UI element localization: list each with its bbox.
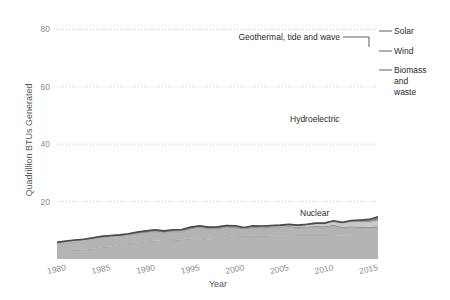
x-tick-label: 1990: [135, 262, 156, 276]
y-tick-label: 80: [41, 24, 51, 34]
y-axis-title: Quadrillion BTUs Generated: [24, 83, 34, 196]
solar-label: Solar: [394, 26, 414, 36]
x-tick-label: 2005: [269, 262, 290, 276]
x-tick-label: 1980: [46, 262, 67, 276]
x-tick-labels-group: 19801985199019952000200520102015: [46, 262, 379, 276]
hydroelectric-label: Hydroelectric: [290, 114, 340, 124]
nuclear-label: Nuclear: [300, 208, 329, 218]
x-tick-label: 2000: [224, 262, 245, 276]
area-chart-svg: 20406080 1980198519901995200020052010201…: [0, 0, 450, 300]
y-tick-labels-group: 20406080: [41, 24, 51, 206]
geothermal-callout-label: Geothermal, tide and wave: [238, 32, 340, 42]
x-tick-label: 2010: [314, 262, 335, 276]
y-tick-label: 20: [41, 197, 51, 207]
x-tick-label: 1985: [91, 262, 112, 276]
stacked-area-group: [57, 217, 378, 259]
x-tick-label: 1995: [180, 262, 201, 276]
x-tick-label: 2015: [358, 262, 379, 276]
chart-figure: 20406080 1980198519901995200020052010201…: [0, 0, 450, 300]
wind-label: Wind: [394, 46, 414, 56]
biomass-label-line2: and: [394, 76, 408, 86]
x-axis-title: Year: [209, 279, 227, 289]
y-tick-label: 40: [41, 139, 51, 149]
biomass-label-line3: waste: [393, 87, 416, 97]
biomass-label-line1: Biomass: [394, 65, 427, 75]
geothermal-leader-line: [343, 37, 369, 47]
y-tick-label: 60: [41, 82, 51, 92]
